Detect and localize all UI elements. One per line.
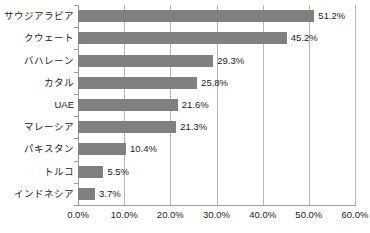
y-axis-category-label: パキスタン [0,143,74,155]
y-axis-category-labels: サウジアラビアクウェートバハレーンカタルUAEマレーシアパキスタントルコインドネ… [0,5,74,205]
y-axis-category-label: UAE [0,99,74,111]
x-axis-tick-label: 40.0% [249,208,276,222]
y-axis-category-label: トルコ [0,166,74,178]
y-axis-category-label: サウジアラビア [0,10,74,22]
bar [78,10,314,22]
y-axis-category-label: インドネシア [0,188,74,200]
bar-value-label: 3.7% [99,188,121,200]
bar [78,143,126,155]
bar-value-label: 45.2% [291,32,318,44]
x-axis-tick-label: 0.0% [67,208,89,222]
bar-value-label: 25.8% [201,77,228,89]
bar-value-label: 10.4% [130,143,157,155]
y-axis-tick [74,161,78,162]
bar [78,188,95,200]
bar [78,166,103,178]
bar [78,121,176,133]
x-axis-tick-label: 20.0% [157,208,184,222]
y-axis-category-label: マレーシア [0,121,74,133]
bar [78,32,287,44]
y-axis-tick [74,94,78,95]
bar [78,99,178,111]
bar-value-label: 21.3% [180,121,207,133]
x-axis-tick-labels: 0.0%10.0%20.0%30.0%40.0%50.0%60.0% [0,208,370,228]
y-axis-tick [74,72,78,73]
y-axis-tick [74,5,78,6]
bar-value-label: 5.5% [107,166,129,178]
y-axis-tick [74,138,78,139]
bar-value-label: 51.2% [318,10,345,22]
bar-value-label: 29.3% [217,55,244,67]
y-axis-category-label: クウェート [0,32,74,44]
gridline [355,5,356,205]
bar [78,55,213,67]
y-axis-category-label: バハレーン [0,55,74,67]
x-axis-tick-label: 30.0% [203,208,230,222]
y-axis-category-label: カタル [0,77,74,89]
x-axis-tick-label: 60.0% [342,208,369,222]
y-axis-tick [74,49,78,50]
y-axis-tick [74,27,78,28]
x-axis-tick-label: 50.0% [295,208,322,222]
bar-value-label: 21.6% [182,99,209,111]
bar [78,77,197,89]
y-axis-tick [74,183,78,184]
y-axis-tick [74,116,78,117]
x-axis-line [78,205,356,206]
bar-chart: サウジアラビアクウェートバハレーンカタルUAEマレーシアパキスタントルコインドネ… [0,0,370,233]
x-axis-tick-label: 10.0% [111,208,138,222]
